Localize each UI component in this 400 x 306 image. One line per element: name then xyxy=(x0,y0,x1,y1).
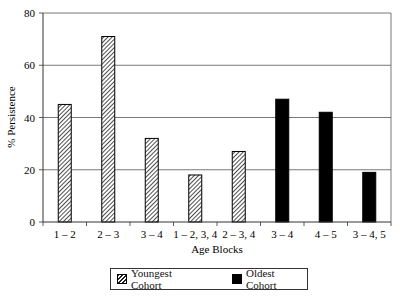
legend-label-youngest: Youngest Cohort xyxy=(131,267,204,291)
y-tick-label: 20 xyxy=(24,164,36,176)
bar-chart: 0204060801 – 22 – 33 – 41 – 2, 3, 42 – 3… xyxy=(0,0,400,262)
y-tick-label: 60 xyxy=(24,59,36,71)
legend-item-oldest: Oldest Cohort xyxy=(232,267,307,291)
bar xyxy=(363,172,376,222)
bar xyxy=(58,104,71,222)
bar xyxy=(102,37,115,222)
legend-label-oldest: Oldest Cohort xyxy=(246,267,307,291)
bar xyxy=(319,112,332,222)
x-tick-label: 3 – 4 xyxy=(271,228,294,240)
x-tick-label: 1 – 2 xyxy=(54,228,76,240)
y-tick-label: 0 xyxy=(30,216,36,228)
bar xyxy=(189,175,202,222)
bar xyxy=(276,99,289,222)
x-tick-label: 2 – 3 xyxy=(97,228,120,240)
x-tick-label: 3 – 4 xyxy=(141,228,164,240)
x-axis-label: Age Blocks xyxy=(191,243,243,255)
axes: 0204060801 – 22 – 33 – 41 – 2, 3, 42 – 3… xyxy=(24,7,391,240)
y-tick-label: 80 xyxy=(24,7,36,19)
y-axis-label: % Persistence xyxy=(5,86,17,148)
bar xyxy=(145,138,158,222)
bars xyxy=(58,37,376,222)
bar xyxy=(232,151,245,222)
x-tick-label: 1 – 2, 3, 4 xyxy=(173,228,218,240)
x-tick-label: 2 – 3, 4 xyxy=(222,228,256,240)
gridlines xyxy=(43,13,391,170)
y-tick-label: 40 xyxy=(24,112,36,124)
legend: Youngest Cohort Oldest Cohort xyxy=(110,268,308,290)
legend-item-youngest: Youngest Cohort xyxy=(117,267,204,291)
solid-swatch-icon xyxy=(232,274,242,284)
hatched-swatch-icon xyxy=(117,274,127,284)
x-tick-label: 4 – 5 xyxy=(315,228,338,240)
x-tick-label: 3 – 4, 5 xyxy=(353,228,387,240)
